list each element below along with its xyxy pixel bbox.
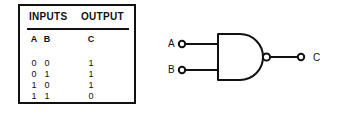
table-column-header-c: C	[85, 34, 97, 44]
cell-c: 0	[85, 91, 97, 102]
table-row: 1 1 0	[20, 91, 134, 102]
logic-gate-figure: INPUTS OUTPUT A B C 0 0 1 0 1 1	[0, 0, 338, 117]
cell-c: 1	[85, 69, 97, 80]
nand-gate-diagram: A B C	[168, 22, 338, 94]
cell-a: 0	[28, 58, 40, 69]
table-column-header-row: A B C	[20, 34, 134, 47]
cell-a: 1	[28, 91, 40, 102]
input-b-terminal	[179, 67, 185, 73]
table-header-divider	[27, 28, 129, 30]
gate-body	[218, 34, 263, 80]
table-row: 0 1 1	[20, 69, 134, 80]
input-a-label: A	[168, 38, 175, 49]
cell-b: 0	[41, 80, 53, 91]
table-row: 1 0 1	[20, 80, 134, 91]
table-row: 0 0 1	[20, 58, 134, 69]
cell-c: 1	[85, 80, 97, 91]
cell-a: 1	[28, 80, 40, 91]
table-column-header-a: A	[28, 34, 40, 44]
output-terminal	[298, 54, 304, 60]
table-group-header-row: INPUTS OUTPUT	[20, 11, 134, 25]
table-column-header-b: B	[41, 34, 53, 44]
table-body: 0 0 1 0 1 1 1 0 1 1 1 0	[20, 58, 134, 102]
truth-table: INPUTS OUTPUT A B C 0 0 1 0 1 1	[18, 4, 136, 104]
inversion-bubble-icon	[263, 53, 270, 60]
input-b-label: B	[168, 64, 175, 75]
cell-b: 1	[41, 69, 53, 80]
cell-b: 0	[41, 58, 53, 69]
table-group-header-inputs: INPUTS	[29, 11, 67, 22]
cell-c: 1	[85, 58, 97, 69]
cell-a: 0	[28, 69, 40, 80]
cell-b: 1	[41, 91, 53, 102]
output-c-label: C	[313, 52, 320, 63]
table-group-header-output: OUTPUT	[81, 11, 124, 22]
input-a-terminal	[179, 41, 185, 47]
